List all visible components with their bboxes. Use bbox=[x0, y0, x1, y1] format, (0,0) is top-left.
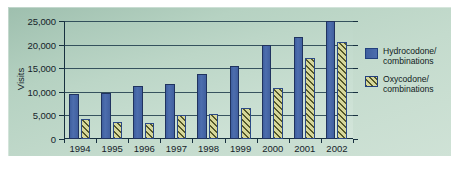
bar-oxycodone bbox=[145, 123, 155, 139]
x-axis-tick-label: 2000 bbox=[257, 143, 289, 154]
y-axis-tick-right bbox=[353, 92, 358, 93]
bar-hydrocodone bbox=[69, 94, 79, 139]
y-axis-tick-label: 25,000 bbox=[28, 16, 56, 27]
bar-group bbox=[289, 21, 321, 139]
chart-panel: Visits 05,00010,00015,00020,00025,000 19… bbox=[8, 7, 451, 156]
x-axis-tick-label: 1996 bbox=[128, 143, 160, 154]
bar-hydrocodone bbox=[326, 21, 336, 139]
x-axis-tick bbox=[353, 139, 354, 143]
bar-oxycodone bbox=[241, 108, 251, 139]
y-axis-tick-right bbox=[353, 21, 358, 22]
chart-figure: Visits 05,00010,00015,00020,00025,000 19… bbox=[0, 0, 459, 170]
x-axis-tick-label: 1994 bbox=[64, 143, 96, 154]
bar-series-container bbox=[64, 21, 353, 139]
bar-oxycodone bbox=[81, 119, 91, 139]
y-axis-tick-right bbox=[353, 45, 358, 46]
bar-hydrocodone bbox=[133, 86, 143, 139]
blue-solid-swatch bbox=[365, 48, 378, 59]
x-axis-tick-label: 2002 bbox=[321, 143, 353, 154]
bar-oxycodone bbox=[177, 115, 187, 139]
bar-hydrocodone bbox=[230, 66, 240, 139]
bar-group bbox=[64, 21, 96, 139]
y-axis-tick-label: 5,000 bbox=[33, 110, 56, 121]
yellow-hatch-swatch bbox=[365, 76, 378, 87]
y-axis-tick-label: 10,000 bbox=[28, 86, 56, 97]
y-axis-tick-label: 15,000 bbox=[28, 63, 56, 74]
legend-item: Hydrocodone/ combinations bbox=[365, 47, 459, 66]
y-axis-title: Visits bbox=[15, 68, 26, 91]
x-axis-tick-label: 1997 bbox=[160, 143, 192, 154]
bar-hydrocodone bbox=[294, 37, 304, 139]
x-axis-tick-label: 1995 bbox=[96, 143, 128, 154]
x-axis-tick-label: 2001 bbox=[289, 143, 321, 154]
bar-group bbox=[321, 21, 353, 139]
bar-hydrocodone bbox=[165, 84, 175, 139]
bar-oxycodone bbox=[113, 122, 123, 139]
x-axis-tick-label: 1999 bbox=[225, 143, 257, 154]
y-axis-tick-right bbox=[353, 68, 358, 69]
legend-item-label: Oxycodone/ combinations bbox=[383, 75, 434, 94]
bar-oxycodone bbox=[305, 58, 315, 139]
x-axis-tick-label: 1998 bbox=[192, 143, 224, 154]
x-axis-tick bbox=[64, 139, 65, 143]
legend-item: Oxycodone/ combinations bbox=[365, 75, 459, 94]
legend-item-label: Hydrocodone/ combinations bbox=[383, 47, 437, 66]
chart-legend: Hydrocodone/ combinationsOxycodone/ comb… bbox=[365, 47, 459, 103]
bar-oxycodone bbox=[209, 114, 219, 139]
bar-group bbox=[96, 21, 128, 139]
bar-hydrocodone bbox=[262, 45, 272, 139]
y-axis-tick-right bbox=[353, 115, 358, 116]
bar-oxycodone bbox=[337, 42, 347, 139]
bar-hydrocodone bbox=[101, 93, 111, 139]
bar-hydrocodone bbox=[197, 74, 207, 139]
y-axis-tick-label: 0 bbox=[51, 134, 56, 145]
bar-group bbox=[192, 21, 224, 139]
bar-group bbox=[225, 21, 257, 139]
bar-oxycodone bbox=[273, 88, 283, 139]
plot-area: 05,00010,00015,00020,00025,000 199419951… bbox=[64, 21, 353, 139]
bar-group bbox=[128, 21, 160, 139]
bar-group bbox=[160, 21, 192, 139]
bar-group bbox=[257, 21, 289, 139]
y-axis-tick-label: 20,000 bbox=[28, 39, 56, 50]
